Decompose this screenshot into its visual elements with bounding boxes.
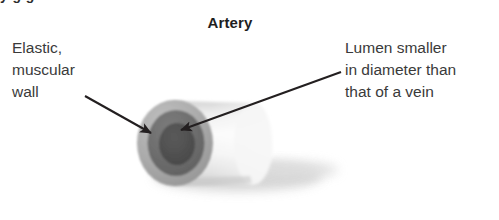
lumen [159, 123, 195, 165]
artery-cross-section [137, 100, 213, 186]
artery-diagram-figure: y g g Artery Elastic, muscular wall Lume… [0, 0, 499, 220]
artery-illustration [0, 0, 499, 220]
arrow-to-wall [85, 96, 151, 133]
